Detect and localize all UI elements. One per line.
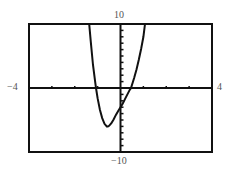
xmin-label: −4 [7, 82, 18, 92]
function-curve [89, 24, 145, 126]
graph-window [0, 0, 233, 173]
ymax-label: 10 [114, 10, 124, 20]
xmax-label: 4 [217, 82, 222, 92]
axes [29, 24, 212, 152]
ymin-label: −10 [111, 156, 127, 166]
